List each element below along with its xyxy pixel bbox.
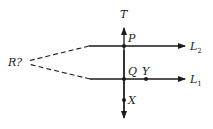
label-r: R? [7,56,22,69]
dashed-extension-l2 [28,46,89,61]
label-l1: L1 [189,73,202,88]
parallel-lines-diagram: T P Q Y X R? L2 L1 [0,0,213,129]
point-q [122,77,126,81]
label-q: Q [128,65,137,78]
dashed-extension-l1 [28,64,90,79]
point-p [122,44,126,48]
point-x [122,98,126,102]
label-y: Y [142,65,151,78]
label-p: P [127,32,136,45]
label-l2: L2 [189,40,202,55]
label-t: T [120,8,129,21]
label-x: X [127,94,137,107]
